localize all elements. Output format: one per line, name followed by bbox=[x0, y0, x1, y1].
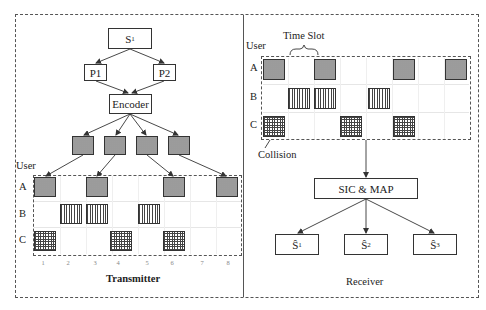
connector-arrows bbox=[0, 0, 486, 310]
